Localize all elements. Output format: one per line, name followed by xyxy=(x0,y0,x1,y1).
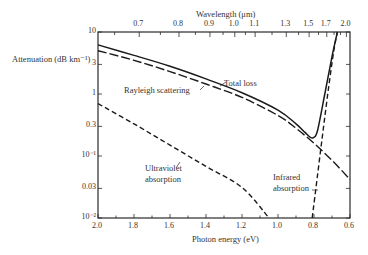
x2-tick-label: 0.8 xyxy=(173,19,183,28)
energy-axis-title: Photon energy (eV) xyxy=(192,234,259,244)
x2-tick-label: 1.5 xyxy=(303,19,313,28)
y-tick-label: 10⁻¹ xyxy=(82,150,96,159)
x-tick-label: 0.6 xyxy=(344,221,354,230)
x2-tick-label: 0.9 xyxy=(204,19,214,28)
uv-label-line1: Ultraviolet xyxy=(145,163,182,173)
x-tick-label: 1.6 xyxy=(164,221,174,230)
total-loss-label: Total loss xyxy=(224,78,257,88)
x2-tick-label: 1.1 xyxy=(249,19,259,28)
x2-tick-label: 1.0 xyxy=(229,19,239,28)
x2-tick-label: 1.7 xyxy=(321,19,331,28)
y-tick-label: 1 xyxy=(92,88,96,97)
uv-label-line2: absorption xyxy=(145,174,181,184)
ir-label-line1: Infrared xyxy=(273,172,300,182)
attenuation-axis-title: Attenuation (dB km⁻¹) xyxy=(12,54,90,64)
x2-tick-label: 0.7 xyxy=(133,19,143,28)
y-tick-label: 0.3 xyxy=(86,120,96,129)
x-tick-label: 1.4 xyxy=(200,221,210,230)
rayleigh-pointer xyxy=(200,86,204,90)
x-tick-label: 0.8 xyxy=(308,221,318,230)
y-tick-label: 0.03 xyxy=(82,182,96,191)
attenuation-chart xyxy=(0,0,368,255)
x-tick-label: 1.8 xyxy=(128,221,138,230)
x-tick-label: 1.0 xyxy=(272,221,282,230)
curve-rayleigh-scattering xyxy=(98,51,350,180)
x-tick-label: 1.2 xyxy=(236,221,246,230)
x2-tick-label: 1.3 xyxy=(280,19,290,28)
ir-label-line2: absorption xyxy=(273,183,309,193)
x2-tick-label: 2.0 xyxy=(340,19,350,28)
y-tick-label: 10 xyxy=(88,26,96,35)
y-tick-label: 10⁻² xyxy=(82,212,96,221)
y-tick-label: 3 xyxy=(92,58,96,67)
wavelength-axis-title: Wavelength (μm) xyxy=(196,9,255,19)
x-tick-label: 2.0 xyxy=(92,221,102,230)
curve-ultraviolet-absorption xyxy=(98,104,269,218)
rayleigh-label: Rayleigh scattering xyxy=(124,85,190,95)
